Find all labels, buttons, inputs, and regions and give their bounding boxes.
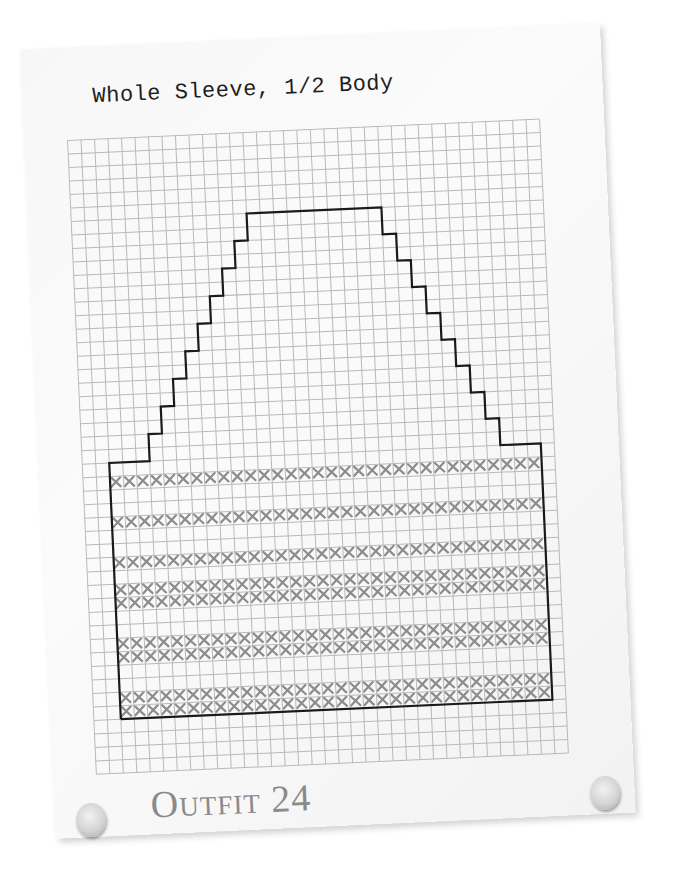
stitch-x-mark: [532, 538, 543, 549]
stitch-x-mark: [401, 625, 412, 636]
stitch-x-mark: [247, 511, 258, 522]
stitch-x-mark: [269, 685, 280, 696]
stitch-x-mark: [137, 475, 148, 486]
stitch-x-mark: [449, 502, 460, 513]
stitch-x-mark: [116, 598, 127, 609]
stitch-x-mark: [262, 551, 273, 562]
stitch-x-mark: [520, 566, 531, 577]
stitch-x-mark: [159, 650, 170, 661]
stitch-x-mark: [170, 595, 181, 606]
stitch-x-mark: [409, 503, 420, 514]
stitch-x-mark: [442, 637, 453, 648]
stitch-x-mark: [376, 681, 387, 692]
stitch-x-mark: [215, 688, 226, 699]
knitting-chart-grid: [67, 118, 570, 775]
stitch-x-mark: [355, 506, 366, 517]
stitch-x-mark: [495, 621, 506, 632]
stitch-x-mark: [145, 637, 156, 648]
stitch-x-mark: [128, 557, 139, 568]
stitch-x-mark: [266, 632, 277, 643]
stitch-x-mark: [188, 689, 199, 700]
stitch-x-mark: [334, 642, 345, 653]
stitch-x-mark: [183, 581, 194, 592]
stitch-x-mark: [340, 466, 351, 477]
stitch-x-mark: [112, 517, 123, 528]
stitch-x-mark: [469, 636, 480, 647]
stitch-x-mark: [235, 552, 246, 563]
stitch-x-mark: [245, 470, 256, 481]
stitch-x-mark: [197, 594, 208, 605]
stitch-x-mark: [466, 568, 477, 579]
stitch-x-mark: [386, 586, 397, 597]
stitch-x-mark: [276, 550, 287, 561]
stitch-x-mark: [511, 674, 522, 685]
stitch-x-mark: [397, 545, 408, 556]
stitch-x-mark: [195, 554, 206, 565]
stitch-x-mark: [303, 549, 314, 560]
stitch-x-mark: [193, 513, 204, 524]
stitch-x-mark: [142, 583, 153, 594]
stitch-x-mark: [490, 500, 501, 511]
stitch-x-mark: [533, 565, 544, 576]
stitch-x-mark: [412, 571, 423, 582]
stitch-x-mark: [451, 542, 462, 553]
stitch-x-mark: [439, 570, 450, 581]
stitch-x-mark: [314, 508, 325, 519]
stitch-x-mark: [326, 467, 337, 478]
stitch-x-mark: [232, 471, 243, 482]
stitch-x-mark: [328, 507, 339, 518]
stitch-x-mark: [422, 503, 433, 514]
stitch-x-mark: [506, 567, 517, 578]
stitch-x-mark: [210, 594, 221, 605]
stitch-x-mark: [181, 554, 192, 565]
stitch-x-mark: [318, 589, 329, 600]
stitch-x-mark: [380, 464, 391, 475]
stitch-x-mark: [256, 700, 267, 711]
stitch-x-mark: [482, 635, 493, 646]
stitch-x-mark: [453, 583, 464, 594]
stitch-x-mark: [493, 567, 504, 578]
stitch-x-mark: [440, 583, 451, 594]
stitch-x-mark: [407, 463, 418, 474]
stitch-x-mark: [507, 580, 518, 591]
stitch-x-mark: [363, 681, 374, 692]
stitch-x-mark: [368, 505, 379, 516]
stitch-x-mark: [291, 590, 302, 601]
stitch-x-mark: [267, 645, 278, 656]
stitch-x-mark: [161, 704, 172, 715]
stitch-x-mark: [498, 675, 509, 686]
stitch-x-mark: [208, 553, 219, 564]
pushpin-bottom-left: [76, 803, 106, 837]
stitch-x-mark: [390, 693, 401, 704]
stitch-x-mark: [322, 683, 333, 694]
stitch-x-mark: [310, 697, 321, 708]
stitch-x-mark: [337, 696, 348, 707]
stitch-x-mark: [118, 652, 129, 663]
stitch-x-mark: [309, 684, 320, 695]
stitch-x-mark: [226, 647, 237, 658]
stitch-x-mark: [428, 624, 439, 635]
stitch-x-mark: [455, 636, 466, 647]
stitch-x-mark: [403, 679, 414, 690]
stitch-x-mark: [301, 508, 312, 519]
stitch-x-mark: [296, 698, 307, 709]
stitch-x-mark: [280, 631, 291, 642]
stitch-x-mark: [360, 627, 371, 638]
stitch-x-mark: [320, 629, 331, 640]
stitch-x-mark: [295, 684, 306, 695]
stitch-x-mark: [348, 641, 359, 652]
stitch-x-mark: [493, 581, 504, 592]
stitch-x-mark: [288, 509, 299, 520]
stitch-x-mark: [199, 648, 210, 659]
stitch-x-mark: [169, 582, 180, 593]
stitch-x-mark: [509, 621, 520, 632]
stitch-x-mark: [517, 499, 528, 510]
stitch-x-mark: [458, 690, 469, 701]
stitch-x-mark: [156, 582, 167, 593]
stitch-x-mark: [318, 575, 329, 586]
stitch-x-mark: [444, 691, 455, 702]
stitch-x-mark: [371, 573, 382, 584]
stitch-x-mark: [299, 468, 310, 479]
stitch-x-mark: [332, 588, 343, 599]
stitch-x-mark: [496, 635, 507, 646]
